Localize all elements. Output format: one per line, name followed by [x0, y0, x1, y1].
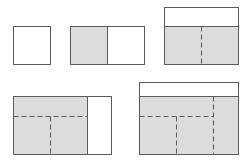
panel-grid-with-sidebar — [14, 97, 112, 155]
layout-diagram — [0, 0, 252, 164]
panel-header-two-column — [165, 8, 239, 65]
panel-header-grid-with-sidebar — [140, 83, 239, 155]
panel-single-box — [14, 27, 51, 65]
panel-two-column — [71, 27, 145, 65]
